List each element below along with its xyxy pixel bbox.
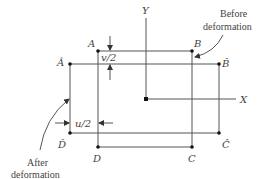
vertex-c-hat-label: Ĉ [222, 139, 230, 150]
vertex-b-hat-dot [217, 62, 221, 66]
y-axis-label: Y [142, 5, 150, 16]
vertex-d-label: D [92, 153, 101, 164]
vertex-c-label: C [188, 153, 196, 164]
vertex-b-dot [190, 49, 194, 53]
vertex-d-hat-dot [68, 131, 72, 135]
vertex-c-hat-dot [217, 131, 221, 135]
after-caption-line2: deformation [11, 169, 60, 179]
vertex-a-label: A [87, 38, 95, 49]
vertex-a-hat-label: Â [56, 57, 64, 68]
origin-marker [144, 97, 148, 101]
u-half-label: u/2 [75, 118, 91, 129]
before-caption-line1: Before [220, 8, 248, 19]
v-half-label: v/2 [101, 52, 116, 63]
after-caption-line1: After [27, 157, 49, 168]
vertex-b-hat-label: B̂ [221, 58, 229, 69]
x-axis-label: X [239, 94, 248, 105]
vertex-c-dot [190, 145, 194, 149]
deformation-diagram: Y X A B C D Â B̂ Ĉ D̂ v/2 u/2 Before def… [0, 0, 271, 179]
vertex-a-dot [96, 49, 100, 53]
vertex-d-dot [96, 145, 100, 149]
before-caption-line2: deformation [203, 21, 252, 32]
vertex-b-label: B [193, 38, 201, 49]
vertex-d-hat-label: D̂ [57, 139, 66, 150]
vertex-a-hat-dot [68, 62, 72, 66]
